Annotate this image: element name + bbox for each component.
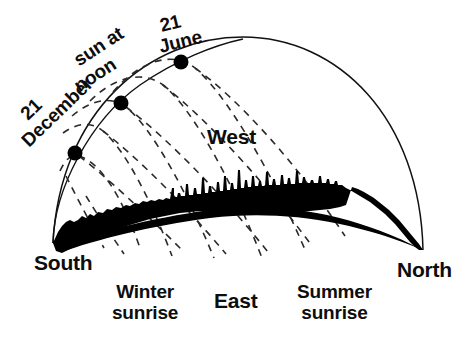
label-east: East xyxy=(214,290,258,312)
label-winter-sunrise-line1: Winter xyxy=(112,281,178,302)
label-summer-sunrise: Summer sunrise xyxy=(297,281,372,324)
label-winter-sunrise-line2: sunrise xyxy=(112,302,178,323)
label-winter-sunrise: Winter sunrise xyxy=(112,281,178,324)
label-summer-sunrise-line1: Summer xyxy=(297,281,372,302)
noon-marker-december xyxy=(68,146,83,161)
label-south: South xyxy=(34,252,92,274)
label-west: West xyxy=(207,126,256,148)
sun-path-diagram: 21 December sun at noon 21 June West Sou… xyxy=(0,0,475,348)
sun-path-arc-summer-mid-set xyxy=(163,85,312,246)
noon-marker-equinox xyxy=(114,96,129,111)
noon-marker-june xyxy=(174,55,189,70)
label-summer-sunrise-line2: sunrise xyxy=(297,302,372,323)
label-north: North xyxy=(397,259,452,281)
